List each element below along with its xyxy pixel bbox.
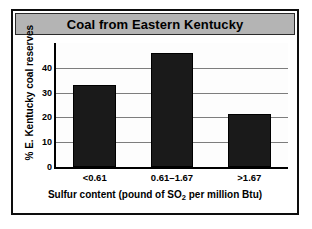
- bar[interactable]: [228, 114, 271, 167]
- y-axis-tick-label: 20: [42, 112, 52, 122]
- chart-title: Coal from Eastern Kentucky: [67, 17, 244, 32]
- y-axis-tick-label: 40: [42, 63, 52, 73]
- x-axis-tick-label: 0.61–1.67: [151, 172, 193, 183]
- plot-area: 010203040<0.610.61–1.67>1.67: [54, 43, 288, 169]
- x-axis-label-subscript: 2: [182, 193, 186, 202]
- bar[interactable]: [73, 85, 116, 167]
- x-axis-label-before: Sulfur content (pound of SO: [48, 189, 182, 200]
- chart-figure: Coal from Eastern Kentucky % E. Kentucky…: [11, 9, 299, 215]
- x-axis-label: Sulfur content (pound of SO2 per million…: [13, 189, 297, 200]
- x-axis-tick-label: <0.61: [83, 172, 107, 183]
- bar[interactable]: [151, 53, 194, 167]
- x-axis-label-after: per million Btu): [186, 189, 262, 200]
- y-axis-tick-label: 0: [47, 162, 52, 172]
- x-axis-tick-label: >1.67: [237, 172, 261, 183]
- y-axis-tick-label: 30: [42, 88, 52, 98]
- y-axis-tick-label: 10: [42, 137, 52, 147]
- y-axis-label: % E. Kentucky coal reserves: [24, 37, 35, 161]
- plot-container: % E. Kentucky coal reserves 010203040<0.…: [13, 37, 297, 215]
- chart-title-banner: Coal from Eastern Kentucky: [15, 13, 295, 35]
